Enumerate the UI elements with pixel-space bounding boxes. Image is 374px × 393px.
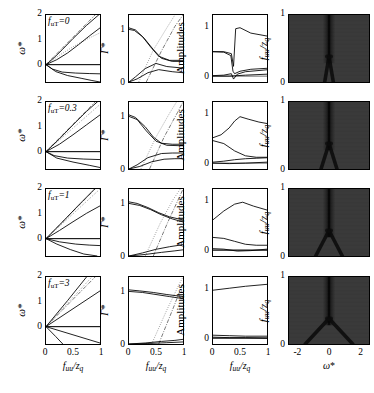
ytick-c1-r1-1: 1 xyxy=(111,111,125,121)
panel-label-row2: fuT=1 xyxy=(48,190,70,202)
ytick-c3-r1-1: 1 xyxy=(271,95,285,105)
ytick-c1-r2-0: 0 xyxy=(111,251,125,261)
yaxis-label-c3-r2: fuu/zq xyxy=(257,193,271,253)
ytick-c0-r3-2: 2 xyxy=(28,270,42,280)
ytick-c0-r1-1: 1 xyxy=(28,121,42,131)
ytick-c3-r2-1: 1 xyxy=(271,182,285,192)
ytick-c2-r0-0: 0 xyxy=(195,71,209,81)
xtick-c0-1: 0.5 xyxy=(63,347,83,357)
panel-label-row0: fuT=0 xyxy=(48,16,70,28)
yaxis-label-c2-r1: Amplitudes xyxy=(174,105,186,165)
ytick-c0-r1-0: 0 xyxy=(28,146,42,156)
ytick-c3-r0-0: 0 xyxy=(271,77,285,87)
panel-label-row1: fuT=0.3 xyxy=(48,103,77,115)
yaxis-label-c2-r0: Amplitudes xyxy=(174,18,186,78)
yaxis-label-c0-r3: ω* xyxy=(15,280,27,340)
xaxis-label-c0: fuu/zq xyxy=(49,360,97,373)
ytick-c2-r2-1: 1 xyxy=(195,195,209,205)
ytick-c0-r0-0: 0 xyxy=(28,59,42,69)
ytick-c1-r0-1: 1 xyxy=(111,24,125,34)
xtick-c2-2: 1 xyxy=(258,347,278,357)
xtick-c1-2: 1 xyxy=(174,347,194,357)
yaxis-label-c3-r1: fuu/zq xyxy=(257,106,271,166)
xaxis-label-c2: fuu/zq xyxy=(216,360,264,373)
ytick-c0-r2-1: 1 xyxy=(28,208,42,218)
xaxis-label-c3: ω* xyxy=(317,360,341,371)
ytick-c2-r2-0: 0 xyxy=(195,245,209,255)
ytick-c1-r1-0: 0 xyxy=(111,164,125,174)
xaxis-label-c1: fuu/zq xyxy=(132,360,180,373)
xtick-c2-0: 0 xyxy=(202,347,222,357)
yaxis-label-c1-r0: Γ* xyxy=(98,18,110,78)
yaxis-label-c0-r1: ω* xyxy=(15,105,27,165)
xtick-c2-1: 0.5 xyxy=(230,347,250,357)
figure-grid: fuT=0fuT=0.3fuT=1fuT=3012012012012010101… xyxy=(0,0,374,393)
xtick-c0-2: 1 xyxy=(91,347,111,357)
yaxis-label-c1-r1: Γ* xyxy=(98,105,110,165)
xtick-c1-0: 0 xyxy=(118,347,138,357)
yaxis-label-c2-r3: Amplitudes xyxy=(174,280,186,340)
yaxis-label-c3-r3: fuu/zq xyxy=(257,281,271,341)
ytick-c1-r0-0: 0 xyxy=(111,77,125,87)
ytick-c0-r2-0: 0 xyxy=(28,233,42,243)
yaxis-label-c3-r0: fuu/zq xyxy=(257,19,271,79)
plot-panel-r2-c3 xyxy=(288,188,370,257)
ytick-c3-r3-1: 1 xyxy=(271,270,285,280)
ytick-c0-r0-2: 2 xyxy=(28,8,42,18)
ytick-c2-r3-0: 0 xyxy=(195,333,209,343)
xtick-c3-2: 2 xyxy=(351,347,371,357)
ytick-c2-r3-1: 1 xyxy=(195,283,209,293)
ytick-c0-r2-2: 2 xyxy=(28,182,42,192)
yaxis-label-c1-r2: Γ* xyxy=(98,192,110,252)
ytick-c1-r2-1: 1 xyxy=(111,198,125,208)
ytick-c1-r3-1: 1 xyxy=(111,286,125,296)
ytick-c0-r0-1: 1 xyxy=(28,34,42,44)
ytick-c3-r1-0: 0 xyxy=(271,164,285,174)
xtick-c3-0: -2 xyxy=(287,347,307,357)
panel-label-row3: fuT=3 xyxy=(48,278,70,290)
yaxis-label-c2-r2: Amplitudes xyxy=(174,192,186,252)
ytick-c2-r0-1: 1 xyxy=(195,21,209,31)
plot-panel-r0-c3 xyxy=(288,14,370,83)
yaxis-label-c0-r0: ω* xyxy=(15,18,27,78)
xtick-c0-0: 0 xyxy=(35,347,55,357)
ytick-c0-r3-1: 1 xyxy=(28,296,42,306)
xtick-c1-1: 0.5 xyxy=(146,347,166,357)
xtick-c3-1: 0 xyxy=(319,347,339,357)
ytick-c3-r0-1: 1 xyxy=(271,8,285,18)
ytick-c2-r1-1: 1 xyxy=(195,108,209,118)
yaxis-label-c0-r2: ω* xyxy=(15,192,27,252)
yaxis-label-c1-r3: Γ* xyxy=(98,280,110,340)
ytick-c2-r1-0: 0 xyxy=(195,158,209,168)
ytick-c0-r1-2: 2 xyxy=(28,95,42,105)
plot-panel-r3-c3 xyxy=(288,276,370,345)
ytick-c0-r3-0: 0 xyxy=(28,321,42,331)
plot-panel-r1-c3 xyxy=(288,101,370,170)
ytick-c3-r2-0: 0 xyxy=(271,251,285,261)
